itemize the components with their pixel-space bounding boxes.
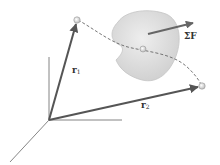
label-r1: r1 <box>72 66 81 75</box>
label-r2-sub: 2 <box>146 103 150 110</box>
kinematics-diagram <box>0 0 220 165</box>
body-mass-center <box>140 46 146 52</box>
particle-position-2 <box>199 83 205 89</box>
label-force: ΣF <box>184 32 197 41</box>
coordinate-axes <box>10 57 122 162</box>
particle-position-1 <box>74 17 80 23</box>
rigid-body <box>112 11 179 81</box>
label-r1-sub: 1 <box>77 68 81 75</box>
position-vector-r2 <box>49 87 198 120</box>
label-r2: r2 <box>141 101 150 110</box>
depth-axis <box>10 120 49 162</box>
